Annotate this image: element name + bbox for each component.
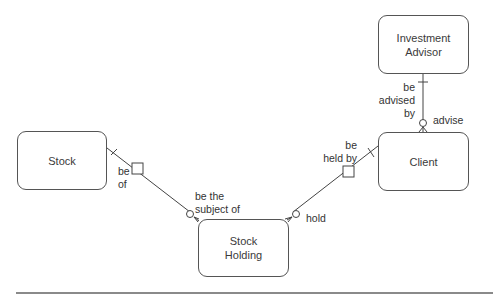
square-marker (132, 163, 143, 174)
zero-circle-marker (293, 211, 300, 218)
label-be-of: be of (118, 165, 130, 191)
label-hold: hold (306, 212, 326, 225)
label-be-advised-by: be advised by (365, 81, 415, 120)
label-be-held-by: be held by (322, 139, 357, 165)
entity-investment-advisor[interactable]: Investment Advisor (378, 15, 469, 74)
advisor-client-relationship (418, 74, 428, 132)
zero-circle-marker (187, 211, 194, 218)
entity-client[interactable]: Client (378, 132, 469, 191)
label-be-the-subject-of: be the subject of (195, 190, 240, 216)
crows-foot-marker (194, 217, 199, 222)
entity-stock-holding[interactable]: Stock Holding (198, 219, 289, 277)
entity-stock[interactable]: Stock (17, 131, 107, 190)
bottom-divider (16, 292, 493, 294)
square-marker (343, 166, 354, 177)
zero-circle-marker (420, 120, 427, 127)
label-advise: advise (433, 114, 463, 127)
